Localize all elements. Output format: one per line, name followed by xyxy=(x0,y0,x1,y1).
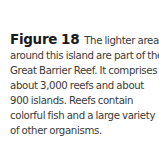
caption-line-2: around this island are part of the xyxy=(10,48,159,63)
figure-caption: Figure 18The lighter areas around this i… xyxy=(10,32,159,138)
caption-line-4: about 3,000 reefs and about xyxy=(10,78,159,93)
figure-label: Figure 18 xyxy=(10,31,79,47)
caption-line-3: Great Barrier Reef. It comprises xyxy=(10,63,159,78)
caption-line-1: Figure 18The lighter areas xyxy=(10,32,159,48)
caption-text: The lighter areas xyxy=(84,35,159,46)
caption-line-7: of other organisms. xyxy=(10,123,159,138)
caption-line-6: colorful fish and a large variety xyxy=(10,108,159,123)
caption-line-5: 900 islands. Reefs contain xyxy=(10,93,159,108)
